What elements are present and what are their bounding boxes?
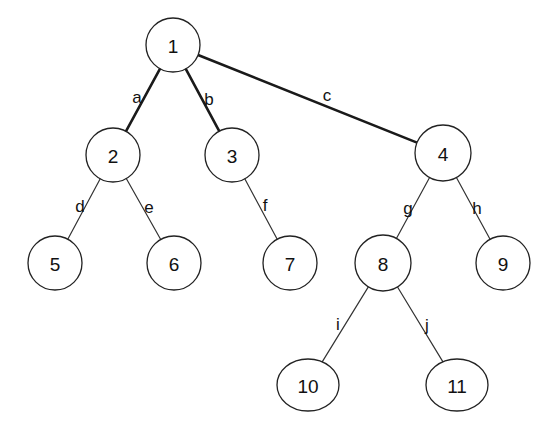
node-label: 1 — [168, 36, 179, 57]
node-label: 11 — [447, 376, 467, 397]
tree-node-8: 8 — [355, 235, 411, 291]
tree-diagram-svg: abcdefghij 1234567891011 — [0, 0, 554, 430]
tree-node-7: 7 — [263, 236, 317, 290]
tree-node-3: 3 — [205, 128, 259, 182]
edge-f — [245, 179, 277, 239]
edge-label-b: b — [204, 90, 213, 109]
node-label: 7 — [285, 254, 296, 275]
node-label: 4 — [438, 144, 449, 165]
nodes-layer: 1234567891011 — [28, 18, 530, 411]
edge-label-f: f — [263, 196, 268, 215]
edge-i — [322, 287, 368, 362]
tree-node-5: 5 — [28, 236, 82, 290]
edge-j — [398, 287, 443, 362]
edge-label-d: d — [75, 197, 84, 216]
node-label: 3 — [227, 146, 238, 167]
edge-labels-layer: abcdefghij — [75, 86, 481, 335]
edge-label-c: c — [323, 86, 332, 105]
tree-node-2: 2 — [86, 128, 140, 182]
node-label: 9 — [498, 254, 509, 275]
tree-node-6: 6 — [147, 236, 201, 290]
tree-node-9: 9 — [476, 236, 530, 290]
tree-node-11: 11 — [426, 359, 488, 411]
edge-label-h: h — [472, 199, 481, 218]
edge-label-g: g — [403, 199, 412, 218]
edge-b — [186, 69, 219, 131]
edge-label-e: e — [144, 198, 153, 217]
edge-label-j: j — [424, 316, 429, 335]
edge-label-i: i — [336, 315, 340, 334]
tree-node-1: 1 — [146, 18, 200, 72]
node-label: 10 — [297, 376, 318, 397]
edge-label-a: a — [132, 88, 142, 107]
node-label: 6 — [169, 254, 180, 275]
tree-node-10: 10 — [277, 359, 339, 411]
edge-a — [126, 69, 160, 132]
tree-node-4: 4 — [415, 125, 471, 181]
edge-g — [396, 178, 429, 239]
tree-diagram: abcdefghij 1234567891011 — [0, 0, 554, 430]
node-label: 5 — [50, 254, 61, 275]
node-label: 8 — [378, 254, 389, 275]
node-label: 2 — [108, 146, 119, 167]
